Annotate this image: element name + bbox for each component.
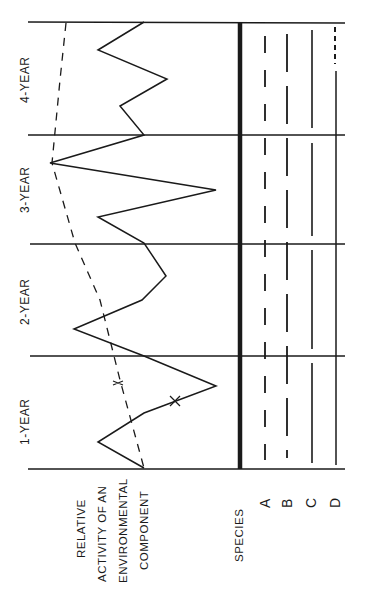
y-mark <box>113 381 123 385</box>
axis-label-environmental: ENVIRONMENTAL <box>117 478 130 583</box>
species-d-label: D <box>327 497 343 508</box>
species-c-label: C <box>303 497 319 508</box>
period-label-2-year: 2-YEAR <box>18 279 32 325</box>
axis-label-activity: ACTIVITY OF AN <box>96 486 109 582</box>
species-a-label: A <box>257 498 273 508</box>
period-label-4-year: 4-YEAR <box>18 57 32 103</box>
curve-y <box>52 23 144 468</box>
period-label-1-year: 1-YEAR <box>18 399 32 445</box>
axis-label-relative: RELATIVE <box>75 499 88 558</box>
species-title: SPECIES <box>233 509 246 562</box>
divider-top <box>28 22 345 23</box>
period-label-3-year: 3-YEAR <box>18 167 32 213</box>
axis-label-component: COMPONENT <box>138 491 151 570</box>
species-b-label: B <box>279 498 295 508</box>
curve-x <box>50 22 216 468</box>
